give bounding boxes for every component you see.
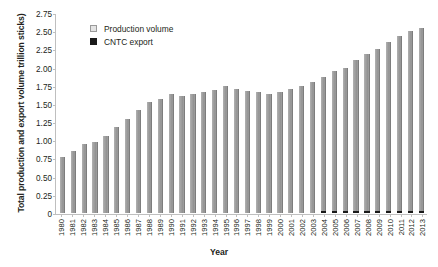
bar-production-volume[interactable] bbox=[266, 94, 271, 213]
bar-production-volume[interactable] bbox=[386, 42, 391, 213]
bar-slot[interactable] bbox=[394, 14, 405, 213]
x-axis-tick: 1988 bbox=[144, 217, 155, 247]
bar-production-volume[interactable] bbox=[82, 144, 87, 213]
bar-slot[interactable] bbox=[307, 14, 318, 213]
x-axis-tick-label: 1995 bbox=[221, 219, 230, 236]
bar-slot[interactable] bbox=[275, 14, 286, 213]
bar-slot[interactable] bbox=[209, 14, 220, 213]
bar-production-volume[interactable] bbox=[71, 151, 76, 213]
bar-production-volume[interactable] bbox=[397, 36, 402, 213]
bar-production-volume[interactable] bbox=[256, 92, 261, 213]
bar-production-volume[interactable] bbox=[114, 127, 119, 213]
x-axis-tick-label: 1986 bbox=[123, 219, 132, 236]
bar-slot[interactable] bbox=[285, 14, 296, 213]
bar-production-volume[interactable] bbox=[234, 89, 239, 213]
bar-slot[interactable] bbox=[198, 14, 209, 213]
x-axis-tick-label: 1982 bbox=[79, 219, 88, 236]
bar-production-volume[interactable] bbox=[125, 119, 130, 213]
bar-production-volume[interactable] bbox=[288, 89, 293, 213]
bar-production-volume[interactable] bbox=[212, 90, 217, 213]
bar-production-volume[interactable] bbox=[92, 142, 97, 213]
bar-cntc-export[interactable] bbox=[375, 211, 380, 213]
y-axis-tick-label: 2.75 bbox=[12, 10, 52, 19]
bar-slot[interactable] bbox=[264, 14, 275, 213]
bar-production-volume[interactable] bbox=[179, 96, 184, 213]
x-axis-tick-label: 2010 bbox=[385, 219, 394, 236]
bar-production-volume[interactable] bbox=[136, 110, 141, 213]
x-axis-tick-label: 1996 bbox=[232, 219, 241, 236]
bar-slot[interactable] bbox=[57, 14, 68, 213]
bar-slot[interactable] bbox=[220, 14, 231, 213]
bar-cntc-export[interactable] bbox=[343, 211, 348, 213]
bar-slot[interactable] bbox=[416, 14, 427, 213]
bar-production-volume[interactable] bbox=[332, 71, 337, 213]
bar-production-volume[interactable] bbox=[408, 31, 413, 213]
bar-production-volume[interactable] bbox=[375, 49, 380, 213]
bar-production-volume[interactable] bbox=[158, 99, 163, 213]
bar-production-volume[interactable] bbox=[364, 54, 369, 213]
bar-cntc-export[interactable] bbox=[364, 211, 369, 213]
bar-production-volume[interactable] bbox=[223, 86, 228, 213]
bar-slot[interactable] bbox=[296, 14, 307, 213]
x-axis-tick: 2004 bbox=[319, 217, 330, 247]
bar-cntc-export[interactable] bbox=[353, 211, 358, 213]
bar-slot[interactable] bbox=[242, 14, 253, 213]
bar-slot[interactable] bbox=[68, 14, 79, 213]
x-axis-tick-mark bbox=[280, 214, 281, 217]
bar-slot[interactable] bbox=[362, 14, 373, 213]
bar-slot[interactable] bbox=[231, 14, 242, 213]
bar-slot[interactable] bbox=[329, 14, 340, 213]
bar-production-volume[interactable] bbox=[245, 91, 250, 213]
bar-production-volume[interactable] bbox=[321, 77, 326, 213]
y-axis-tick-label: 1.50 bbox=[12, 100, 52, 109]
bar-cntc-export[interactable] bbox=[321, 211, 326, 213]
x-axis-tick-mark bbox=[291, 214, 292, 217]
bar-slot[interactable] bbox=[253, 14, 264, 213]
bar-slot[interactable] bbox=[177, 14, 188, 213]
bar-slot[interactable] bbox=[188, 14, 199, 213]
bar-production-volume[interactable] bbox=[299, 86, 304, 213]
bar-production-volume[interactable] bbox=[419, 28, 424, 213]
bar-production-volume[interactable] bbox=[147, 102, 152, 213]
x-axis-tick-mark bbox=[302, 214, 303, 217]
bar-production-volume[interactable] bbox=[190, 94, 195, 213]
x-axis-tick-mark bbox=[149, 214, 150, 217]
bar-production-volume[interactable] bbox=[277, 92, 282, 213]
x-axis-tick-mark bbox=[390, 214, 391, 217]
bar-cntc-export[interactable] bbox=[408, 211, 413, 213]
bar-production-volume[interactable] bbox=[169, 94, 174, 213]
legend-item-cntc-export: CNTC export bbox=[90, 35, 173, 48]
bar-slot[interactable] bbox=[79, 14, 90, 213]
bar-production-volume[interactable] bbox=[310, 82, 315, 213]
y-axis-tick-label: 0.75 bbox=[12, 155, 52, 164]
bar-production-volume[interactable] bbox=[103, 136, 108, 213]
bar-cntc-export[interactable] bbox=[386, 211, 391, 213]
x-axis-tick: 1991 bbox=[176, 217, 187, 247]
bar-production-volume[interactable] bbox=[343, 68, 348, 213]
bar-slot[interactable] bbox=[405, 14, 416, 213]
x-axis-tick-label: 2000 bbox=[276, 219, 285, 236]
bar-production-volume[interactable] bbox=[353, 60, 358, 213]
x-axis-tick-label: 1981 bbox=[68, 219, 77, 236]
x-axis-tick-mark bbox=[379, 214, 380, 217]
bar-slot[interactable] bbox=[340, 14, 351, 213]
bar-cntc-export[interactable] bbox=[332, 211, 337, 213]
x-axis-tick: 1983 bbox=[89, 217, 100, 247]
bar-slot[interactable] bbox=[372, 14, 383, 213]
x-axis-tick-mark bbox=[236, 214, 237, 217]
bar-slot[interactable] bbox=[318, 14, 329, 213]
x-axis-tick-label: 2012 bbox=[407, 219, 416, 236]
bar-cntc-export[interactable] bbox=[397, 211, 402, 213]
bar-slot[interactable] bbox=[351, 14, 362, 213]
y-axis-tick-mark bbox=[53, 50, 56, 51]
bar-cntc-export[interactable] bbox=[419, 211, 424, 213]
bar-production-volume[interactable] bbox=[201, 92, 206, 213]
x-axis-tick: 2002 bbox=[297, 217, 308, 247]
bar-slot[interactable] bbox=[383, 14, 394, 213]
x-axis-tick-mark bbox=[368, 214, 369, 217]
bar-production-volume[interactable] bbox=[60, 157, 65, 213]
x-axis-tick-mark bbox=[247, 214, 248, 217]
x-axis-tick-label: 2008 bbox=[363, 219, 372, 236]
x-axis-tick: 1987 bbox=[133, 217, 144, 247]
x-axis-tick-label: 2002 bbox=[298, 219, 307, 236]
